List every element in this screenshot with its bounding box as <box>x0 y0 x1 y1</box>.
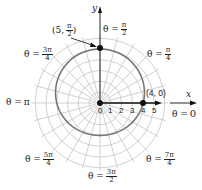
grid-ray <box>82 107 98 169</box>
tick-2: 2 <box>119 107 123 115</box>
denominator: 4 <box>167 160 171 167</box>
x-axis-arrow-icon <box>190 101 197 106</box>
fraction: π2 <box>121 22 128 37</box>
fraction: 3π2 <box>106 169 117 184</box>
point-label-post: ) <box>73 26 77 35</box>
grid-ray <box>101 107 117 169</box>
denominator: 2 <box>109 177 113 184</box>
theta-eq: θ = <box>88 172 104 181</box>
x-axis-label: x <box>186 90 191 99</box>
fraction: π2 <box>66 23 73 38</box>
angle-label-pi-over-4: θ = π4 <box>147 47 171 62</box>
theta-eq: θ = <box>25 155 41 164</box>
theta-eq: θ = <box>147 50 163 59</box>
denominator: 4 <box>46 160 50 167</box>
theta-eq: θ = <box>103 25 119 34</box>
point-label-4-0: (4, 0) <box>146 89 166 98</box>
fraction: 5π4 <box>43 152 54 167</box>
y-axis-arrow-icon <box>98 6 102 13</box>
fraction: 3π4 <box>42 47 53 62</box>
theta-eq: θ = <box>172 110 188 119</box>
angle-label-7pi-over-4: θ = 7π4 <box>146 152 175 167</box>
tick-4: 4 <box>141 107 145 115</box>
theta-eq: θ = <box>146 155 162 164</box>
angle-label-3pi-over-2: θ = 3π2 <box>88 169 117 184</box>
denominator: 4 <box>166 55 170 62</box>
label-pointer-arrow-icon <box>90 43 97 48</box>
angle-label-3pi-over-4: θ = 3π4 <box>24 47 53 62</box>
y-axis-label: y <box>92 4 97 13</box>
tick-1: 1 <box>108 107 112 115</box>
tick-0: 0 <box>98 107 102 115</box>
theta-eq: θ = <box>6 98 22 107</box>
denominator: 2 <box>122 30 126 37</box>
grid-ray <box>101 37 117 99</box>
tick-5: 5 <box>152 107 156 115</box>
polar-graph: y x 0 1 2 3 4 5 (4, 0) (5, π2 ) θ = π2 θ… <box>0 0 202 190</box>
angle-label-0: θ = 0 <box>172 109 196 119</box>
point-5-pi-over-2 <box>97 45 103 51</box>
fraction: π4 <box>165 47 172 62</box>
point-label-5-pi-over-2: (5, π2 ) <box>52 23 76 38</box>
denominator: 4 <box>45 55 49 62</box>
angle-label-5pi-over-4: θ = 5π4 <box>25 152 54 167</box>
angle-label-pi-over-2: θ = π2 <box>103 22 127 37</box>
grid-ray <box>34 85 96 101</box>
fraction: 7π4 <box>164 152 175 167</box>
point-label-pre: (5, <box>52 26 64 35</box>
theta-eq: θ = <box>24 50 40 59</box>
polar-axis-arrow-icon <box>155 101 162 106</box>
pi-value: π <box>24 98 30 107</box>
angle-label-pi: θ = π <box>6 98 30 107</box>
tick-3: 3 <box>130 107 134 115</box>
denominator: 2 <box>67 31 71 38</box>
zero-value: 0 <box>190 109 196 119</box>
